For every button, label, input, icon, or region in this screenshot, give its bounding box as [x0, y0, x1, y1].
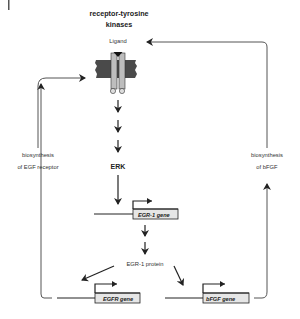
erk-label: ERK [111, 163, 126, 170]
left-feedback-loop [38, 78, 85, 298]
ligand-label: Ligand [109, 38, 126, 44]
left-loop-label-2: of EGF receptor [17, 164, 58, 170]
border-fragment [8, 0, 10, 10]
title-line-2: kinases [106, 20, 132, 29]
right-loop-label-2: of bFGF [256, 164, 278, 170]
egfr-gene: EGFR gene [57, 284, 140, 303]
bfgf-gene: bFGF gene [165, 284, 249, 303]
title-line-1: receptor-tyrosine [89, 9, 148, 18]
egr1-feedback-diagram: receptor-tyrosine kinases Ligand ERK EGR… [0, 0, 300, 319]
egr1-gene-label: EGR-1 gene [138, 212, 170, 218]
right-feedback-loop [147, 42, 267, 298]
arrow-to-egfr [82, 266, 114, 280]
arrow-to-bfgf [174, 266, 183, 285]
egr1-gene: EGR-1 gene [94, 201, 178, 219]
receptor-icon [95, 52, 137, 94]
egfr-gene-label: EGFR gene [103, 296, 133, 302]
bfgf-gene-label: bFGF gene [206, 296, 235, 302]
egr1-protein-label: EGR-1 protein [126, 261, 163, 267]
left-loop-label-1: biosynthesis [22, 152, 54, 158]
right-loop-label-1: biosynthesis [251, 152, 283, 158]
